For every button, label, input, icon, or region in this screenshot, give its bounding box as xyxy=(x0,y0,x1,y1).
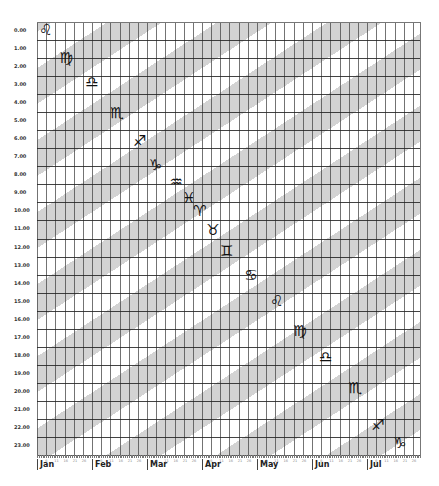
zodiac-capricorn-icon: ♑ xyxy=(149,158,162,173)
y-tick-label: 4.00 xyxy=(14,99,36,105)
x-minor-tick xyxy=(360,455,361,458)
zodiac-virgo-icon: ♍ xyxy=(293,324,306,339)
x-minor-tick xyxy=(409,455,410,458)
x-minor-tick xyxy=(140,455,141,458)
x-day-label: 11 xyxy=(164,459,168,463)
y-tick-label: 23.00 xyxy=(14,442,36,448)
x-day-label: 6 xyxy=(265,459,267,463)
x-day-label: 21 xyxy=(73,459,77,463)
x-minor-tick xyxy=(90,455,91,458)
x-day-label: 16 xyxy=(339,459,343,463)
y-tick-label: 5.00 xyxy=(14,117,36,123)
x-minor-tick xyxy=(173,455,174,458)
x-minor-tick xyxy=(189,455,190,458)
y-tick-label: 14.00 xyxy=(14,280,36,286)
y-tick-label: 6.00 xyxy=(14,135,36,141)
zodiac-capricorn-icon: ♑ xyxy=(393,436,406,451)
zodiac-scorpio-icon: ♏ xyxy=(110,106,123,121)
x-minor-tick xyxy=(299,455,300,458)
x-minor-tick xyxy=(365,455,366,458)
x-minor-tick xyxy=(239,455,240,458)
x-day-label: 21 xyxy=(183,459,187,463)
zodiac-cancer-icon: ♋ xyxy=(244,267,257,282)
x-day-label: 16 xyxy=(64,459,68,463)
x-minor-tick xyxy=(376,455,377,458)
x-minor-tick xyxy=(415,455,416,458)
x-minor-tick xyxy=(46,455,47,458)
x-day-label: 11 xyxy=(219,459,223,463)
x-minor-tick xyxy=(288,455,289,458)
zodiac-leo-icon: ♌ xyxy=(270,294,283,309)
x-minor-tick xyxy=(96,455,97,458)
y-tick-label: 19.00 xyxy=(14,370,36,376)
zodiac-aquarius-icon: ♒ xyxy=(169,175,182,190)
x-minor-tick xyxy=(316,455,317,458)
y-tick-label: 17.00 xyxy=(14,334,36,340)
x-minor-tick xyxy=(41,455,42,458)
x-minor-tick xyxy=(277,455,278,458)
x-day-label: 26 xyxy=(302,459,306,463)
x-minor-tick xyxy=(327,455,328,458)
x-day-label: 11 xyxy=(109,459,113,463)
x-day-label: 11 xyxy=(54,459,58,463)
x-minor-tick xyxy=(101,455,102,458)
x-minor-tick xyxy=(255,455,256,458)
x-minor-tick xyxy=(107,455,108,458)
x-minor-tick xyxy=(349,455,350,458)
x-minor-tick xyxy=(382,455,383,458)
x-minor-tick xyxy=(129,455,130,458)
x-day-label: 26 xyxy=(192,459,196,463)
x-minor-tick xyxy=(371,455,372,458)
x-day-label: 26 xyxy=(357,459,361,463)
x-day-label: 26 xyxy=(137,459,141,463)
x-minor-tick xyxy=(217,455,218,458)
y-tick-label: 21.00 xyxy=(14,406,36,412)
x-minor-tick xyxy=(244,455,245,458)
x-minor-tick xyxy=(354,455,355,458)
x-minor-tick xyxy=(387,455,388,458)
x-day-label: 6 xyxy=(210,459,212,463)
x-minor-tick xyxy=(57,455,58,458)
x-minor-tick xyxy=(79,455,80,458)
zodiac-scorpio-icon: ♏ xyxy=(348,380,361,395)
x-day-label: 21 xyxy=(403,459,407,463)
x-day-label: 26 xyxy=(412,459,416,463)
x-minor-tick xyxy=(200,455,201,458)
x-day-label: 6 xyxy=(155,459,157,463)
x-minor-tick xyxy=(184,455,185,458)
x-minor-tick xyxy=(134,455,135,458)
x-minor-tick xyxy=(233,455,234,458)
y-tick-label: 8.00 xyxy=(14,171,36,177)
x-day-label: 11 xyxy=(329,459,333,463)
x-day-label: 21 xyxy=(128,459,132,463)
x-minor-tick xyxy=(145,455,146,458)
y-tick-label: 16.00 xyxy=(14,316,36,322)
y-tick-label: 2.00 xyxy=(14,63,36,69)
x-minor-tick xyxy=(118,455,119,458)
x-day-label: 11 xyxy=(384,459,388,463)
y-tick-label: 7.00 xyxy=(14,153,36,159)
x-day-label: 16 xyxy=(229,459,233,463)
x-minor-tick xyxy=(332,455,333,458)
y-tick-label: 22.00 xyxy=(14,424,36,430)
x-minor-tick xyxy=(206,455,207,458)
x-minor-tick xyxy=(178,455,179,458)
x-minor-tick xyxy=(52,455,53,458)
x-minor-tick xyxy=(151,455,152,458)
y-tick-label: 10.00 xyxy=(14,207,36,213)
x-minor-tick xyxy=(123,455,124,458)
x-minor-tick xyxy=(321,455,322,458)
x-day-label: 16 xyxy=(394,459,398,463)
x-minor-tick xyxy=(68,455,69,458)
x-minor-tick xyxy=(74,455,75,458)
x-minor-tick xyxy=(167,455,168,458)
x-minor-tick xyxy=(112,455,113,458)
y-tick-label: 11.00 xyxy=(14,225,36,231)
zodiac-virgo-icon: ♍ xyxy=(59,51,72,66)
y-tick-label: 15.00 xyxy=(14,298,36,304)
zodiac-sagittarius-icon: ♐ xyxy=(133,134,146,149)
x-minor-tick xyxy=(261,455,262,458)
x-day-label: 6 xyxy=(100,459,102,463)
x-minor-tick xyxy=(211,455,212,458)
x-day-label: 11 xyxy=(274,459,278,463)
